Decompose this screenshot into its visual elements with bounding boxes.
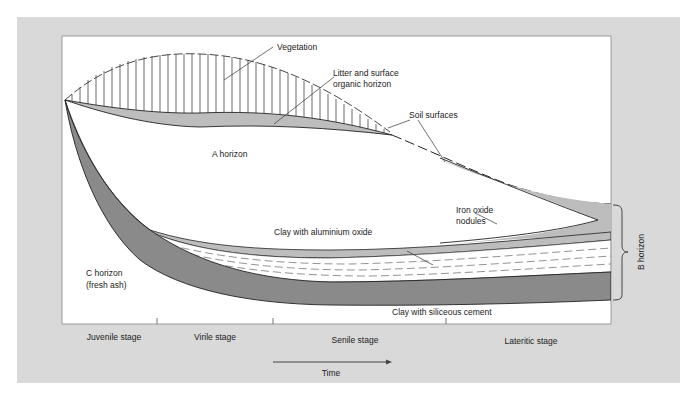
time-arrow-icon xyxy=(273,360,392,365)
label-clay-siliceous: Clay with siliceous cement xyxy=(392,307,492,317)
label-clay-aluminium: Clay with aluminium oxide xyxy=(274,227,373,237)
stage-lateritic: Lateritic stage xyxy=(505,336,558,346)
label-vegetation: Vegetation xyxy=(277,42,317,52)
label-iron-line1: Iron oxide xyxy=(456,205,494,215)
label-c-horizon-line2: (fresh ash) xyxy=(86,280,127,290)
label-c-horizon-line1: C horizon xyxy=(86,268,123,278)
label-litter-line1: Litter and surface xyxy=(333,68,399,78)
label-soil-surfaces: Soil surfaces xyxy=(409,110,458,120)
label-b-horizon: B horizon xyxy=(636,234,646,270)
soil-development-diagram: Vegetation Litter and surface organic ho… xyxy=(0,0,700,406)
b-horizon-brace xyxy=(613,205,628,300)
time-label: Time xyxy=(322,368,341,378)
stage-juvenile: Juvenile stage xyxy=(87,332,142,342)
label-litter-line2: organic horizon xyxy=(333,79,391,89)
stage-virile: Virile stage xyxy=(194,332,236,342)
label-a-horizon: A horizon xyxy=(212,149,248,159)
stage-senile: Senile stage xyxy=(332,335,379,345)
label-iron-line2: nodules xyxy=(456,216,486,226)
